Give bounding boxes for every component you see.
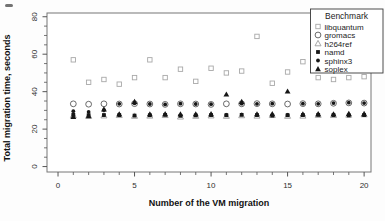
figure: 02040608005101520 Total migration time, …: [0, 0, 385, 221]
sphinx3-marker: [255, 102, 259, 106]
y-tick-label: 0: [30, 164, 39, 169]
sphinx3-marker: [209, 102, 213, 106]
sphinx3-marker: [224, 113, 228, 117]
sphinx3-marker: [301, 102, 305, 106]
legend: Benchmarklibquantumgromacsh264refnamdsph…: [311, 9, 384, 74]
sphinx3-marker: [347, 101, 351, 105]
scatter-chart: 02040608005101520 Total migration time, …: [0, 0, 385, 221]
sphinx3-marker: [270, 102, 274, 106]
y-tick-label: 60: [30, 49, 39, 58]
sphinx3-marker: [194, 102, 198, 106]
sphinx3-marker: [362, 101, 366, 105]
sphinx3-legend-swatch: [316, 59, 320, 63]
y-tick-label: 40: [30, 87, 39, 96]
x-axis-title: Number of the VM migration: [149, 198, 270, 208]
sphinx3-marker: [163, 102, 167, 106]
x-tick-label: 15: [283, 181, 292, 190]
sphinx3-marker: [71, 109, 75, 113]
sphinx3-marker: [179, 102, 183, 106]
y-axis-title: Total migration time, seconds: [2, 35, 12, 162]
x-tick-label: 10: [207, 181, 216, 190]
y-tick-label: 20: [30, 124, 39, 133]
x-tick-label: 0: [56, 181, 61, 190]
legend-title: Benchmark: [325, 11, 369, 21]
sphinx3-marker: [332, 101, 336, 105]
x-tick-label: 5: [132, 181, 137, 190]
scan-artifact: [5, 4, 13, 7]
sphinx3-marker: [286, 113, 290, 117]
sphinx3-marker: [316, 102, 320, 106]
sphinx3-marker: [117, 102, 121, 106]
legend-label: soplex: [325, 65, 348, 74]
x-tick-label: 20: [360, 181, 369, 190]
sphinx3-marker: [148, 102, 152, 106]
y-tick-label: 80: [30, 12, 39, 21]
namd-legend-swatch: [316, 50, 320, 54]
namd-marker: [102, 113, 106, 117]
namd-marker: [240, 113, 244, 117]
namd-marker: [133, 114, 137, 118]
